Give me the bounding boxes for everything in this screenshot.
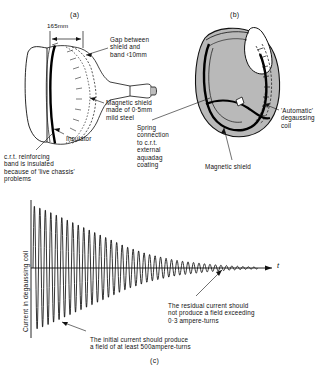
shield-hatching bbox=[67, 50, 82, 139]
panel-tag-a: (a) bbox=[70, 11, 79, 18]
figure-cr-t-magnetic-shield: (a) (b) (c) 165mm Gap between shield and… bbox=[0, 0, 327, 372]
chart-y-axis-label: Current in degaussing coil bbox=[22, 251, 29, 332]
crt-faceplate bbox=[25, 47, 47, 143]
residual-current-annotation-label: The residual current should not produce … bbox=[168, 302, 255, 324]
panel-tag-b: (b) bbox=[230, 11, 239, 18]
panel-b-drawing bbox=[152, 28, 280, 160]
magnetic-shield-inner bbox=[66, 47, 90, 143]
figure-artwork bbox=[0, 0, 327, 372]
dimension-label-165mm: 165mm bbox=[47, 22, 68, 29]
crt-neck bbox=[130, 84, 151, 98]
magnetic-shield-b-label: Magnetic shield bbox=[205, 163, 251, 170]
initial-current-annotation-label: The initial current should produce a fie… bbox=[90, 336, 191, 351]
gap-callout-label: Gap between shield and band ‹10mm bbox=[110, 36, 149, 58]
automatic-degaussing-coil-label: 'Automatic' degaussing coil bbox=[281, 107, 315, 129]
crt-neck-end bbox=[151, 87, 157, 95]
magnetic-shield-callout-label: Magnetic shield made of 0·5mm mild steel bbox=[106, 99, 152, 121]
chart-x-arrow bbox=[265, 266, 272, 271]
reinforcing-band-callout-label: c.r.t. reinforcing band is insulated bec… bbox=[4, 153, 75, 183]
crt-top-edge bbox=[47, 46, 74, 48]
spring-connection-label: Spring connection to c.r.t. external aqu… bbox=[137, 124, 169, 168]
chart-x-axis-label: t bbox=[277, 261, 279, 270]
panel-tag-c: (c) bbox=[150, 357, 159, 364]
insulator-callout-label: Insulator bbox=[66, 135, 92, 142]
reinforcing-band bbox=[50, 46, 55, 144]
magnetic-shield-outline bbox=[72, 47, 96, 143]
